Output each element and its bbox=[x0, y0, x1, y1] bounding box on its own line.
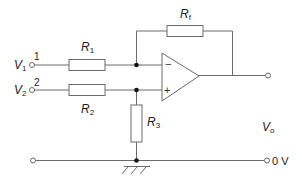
output-terminal bbox=[266, 73, 271, 78]
junction-noninverting bbox=[134, 88, 139, 93]
v2-terminal bbox=[30, 88, 35, 93]
input-v2: V2 2 bbox=[14, 77, 40, 98]
vo-label: Vo bbox=[262, 120, 275, 135]
r3-label: R3 bbox=[147, 115, 161, 130]
ground-right-terminal bbox=[265, 158, 270, 163]
circuit-diagram: V1 1 V2 2 R1 R2 Rf − + Vo R3 0 V bbox=[0, 0, 302, 183]
v1-label: V1 bbox=[14, 58, 27, 73]
terminal-1-number: 1 bbox=[34, 51, 40, 62]
resistor-rf bbox=[167, 26, 203, 37]
op-amp: − + bbox=[162, 53, 199, 101]
ground-icon bbox=[122, 167, 150, 175]
v2-label: V2 bbox=[14, 83, 27, 98]
r1-label: R1 bbox=[81, 40, 95, 55]
input-v1: V1 1 bbox=[14, 51, 40, 73]
ground-left-terminal bbox=[31, 158, 36, 163]
v1-terminal bbox=[30, 63, 35, 68]
r2-label: R2 bbox=[81, 102, 95, 117]
inverting-input-sign: − bbox=[165, 58, 171, 70]
terminal-2-number: 2 bbox=[34, 77, 40, 88]
zero-volt-label: 0 V bbox=[272, 155, 289, 167]
noninverting-input-sign: + bbox=[164, 84, 170, 96]
rf-label: Rf bbox=[180, 7, 192, 22]
junction-ground bbox=[134, 158, 139, 163]
resistor-r2 bbox=[69, 85, 105, 96]
resistor-r3 bbox=[131, 105, 142, 142]
junction-inverting bbox=[134, 63, 139, 68]
resistor-r1 bbox=[69, 60, 105, 71]
